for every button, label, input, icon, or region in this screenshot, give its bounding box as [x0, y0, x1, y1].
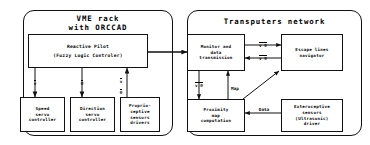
node-proximity-map-computation-label: Proximity map computation: [199, 107, 233, 124]
node-exteroceptive-sensors-driver-label: Exteroceptive sensors (Ultrasonic) drive…: [292, 104, 332, 126]
node-direction-servo-controller[interactable]: Direction servo controller: [70, 97, 115, 132]
node-proximity-map-computation[interactable]: Proximity map computation: [187, 99, 245, 132]
node-speed-servo-controller[interactable]: Speed servo controller: [20, 97, 65, 132]
edge-label-pilot-to-direction: θ: [76, 76, 88, 86]
node-reactive-pilot[interactable]: Reactive Pilot (Fuzzy Logic Controler): [28, 34, 148, 68]
edge-label-escape-to-monitor: v θ: [250, 51, 276, 61]
vme-rack-panel-title: VME rack with ORCCAD: [23, 14, 173, 32]
edge-label-monitor-to-proximity: v θ: [186, 78, 212, 88]
architecture-diagram: VME rack with ORCCAD Transputers network: [0, 0, 370, 145]
node-exteroceptive-sensors-driver[interactable]: Exteroceptive sensors (Ultrasonic) drive…: [281, 99, 343, 132]
node-direction-servo-controller-label: Direction servo controller: [77, 106, 109, 123]
node-reactive-pilot-line1: Reactive Pilot: [65, 42, 111, 51]
edge-label-extero-to-proximity: Data: [252, 107, 276, 112]
node-monitor-and-data-transmission-label: Monitor and data transmission: [197, 44, 234, 61]
node-speed-servo-controller-label: Speed servo controller: [27, 106, 59, 123]
edge-label-proprio-to-pilot: v θ: [115, 74, 127, 100]
edge-label-monitor-to-escape: v θ: [250, 38, 276, 48]
node-escape-lines-navigator-label: Escape lines navigator: [293, 47, 330, 58]
transputers-network-panel-title: Transputers network: [187, 17, 362, 26]
node-monitor-and-data-transmission[interactable]: Monitor and data transmission: [187, 34, 245, 71]
node-proprioceptive-sensors-drivers[interactable]: Proprio- ceptive sensors drivers: [120, 97, 160, 132]
edge-label-pilot-to-speed: v: [29, 76, 41, 86]
node-proprioceptive-sensors-drivers-label: Proprio- ceptive sensors drivers: [127, 103, 153, 125]
edge-label-proximity-to-monitor: Map: [231, 86, 253, 91]
node-reactive-pilot-line2: (Fuzzy Logic Controler): [51, 51, 124, 60]
node-escape-lines-navigator[interactable]: Escape lines navigator: [281, 34, 343, 71]
